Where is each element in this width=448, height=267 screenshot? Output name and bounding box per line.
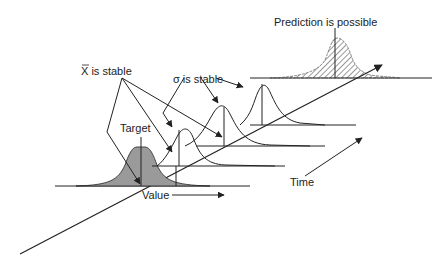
svg-text:σ is stable: σ is stable: [173, 73, 223, 85]
label-xbar-stable: X is stable: [81, 65, 132, 77]
svg-text:X is stable: X is stable: [81, 65, 132, 77]
label-prediction: Prediction is possible: [274, 16, 377, 28]
label-time: Time: [290, 176, 314, 188]
distribution-3: [185, 106, 325, 146]
label-target: Target: [120, 122, 151, 134]
distribution-2: [152, 129, 285, 186]
sigma-stable-arrows: [163, 78, 243, 127]
distribution-predicted: [250, 28, 432, 78]
time-arrow: [305, 138, 362, 176]
distribution-4: [240, 84, 356, 125]
distribution-1-target: [55, 137, 250, 186]
process-stability-diagram: X is stable σ is stable Target Value Tim…: [0, 0, 448, 267]
label-value: Value: [142, 189, 169, 201]
label-sigma-stable: σ is stable: [173, 73, 223, 85]
time-axis: [20, 65, 382, 254]
